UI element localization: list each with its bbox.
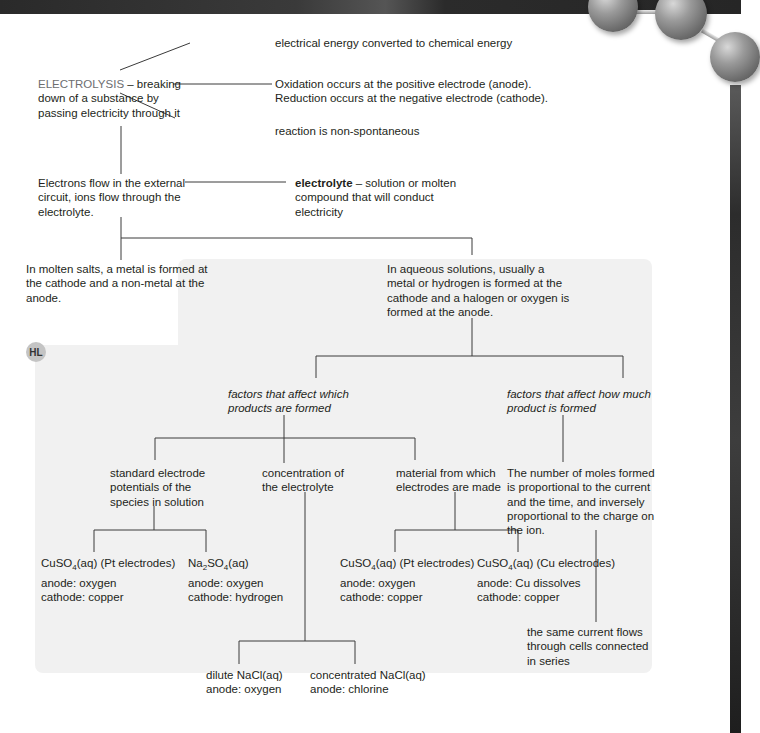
example-na2so4: Na2SO4(aq)anode: oxygencathode: hydrogen <box>188 556 283 604</box>
factors-which-heading: factors that affect which products are f… <box>228 387 349 416</box>
property-nonspontaneous: reaction is non-spontaneous <box>275 124 420 138</box>
solution: dilute NaCl(aq) <box>206 669 283 681</box>
connector <box>120 43 190 70</box>
formula: CuSO <box>477 557 508 569</box>
formula-rest: (aq) (Pt electrodes) <box>77 557 175 569</box>
formula-rest: (aq) <box>228 557 248 569</box>
anode-product: anode: oxygen <box>340 577 415 589</box>
property-energy: electrical energy converted to chemical … <box>275 36 512 50</box>
formula-rest: (aq) (Cu electrodes) <box>513 557 615 569</box>
moles-statement: The number of moles formed is proportion… <box>507 466 655 537</box>
electrolyte-definition: electrolyte – solution or molten compoun… <box>295 176 456 219</box>
property-redox: Oxidation occurs at the positive electro… <box>275 77 548 106</box>
anode-product: anode: oxygen <box>206 683 281 695</box>
cathode-product: cathode: copper <box>41 591 123 603</box>
cathode-product: cathode: copper <box>340 591 422 603</box>
example-cuso4-pt-potentials: CuSO4(aq) (Pt electrodes)anode: oxygenca… <box>41 556 175 604</box>
formula: Na <box>188 557 203 569</box>
anode-product: anode: chlorine <box>310 683 389 695</box>
factor-electrode-potentials: standard electrode potentials of the spe… <box>110 466 205 509</box>
cathode-product: cathode: hydrogen <box>188 591 283 603</box>
formula: CuSO <box>340 557 371 569</box>
solution: concentrated NaCl(aq) <box>310 669 426 681</box>
anode-product: anode: oxygen <box>188 577 263 589</box>
cathode-product: cathode: copper <box>477 591 559 603</box>
conduction-text: Electrons flow in the external circuit, … <box>38 176 185 219</box>
factor-concentration: concentration of the electrolyte <box>262 466 344 495</box>
molten-salts-text: In molten salts, a metal is formed at th… <box>26 262 208 305</box>
formula: CuSO <box>41 557 72 569</box>
electrolysis-term: ELECTROLYSIS <box>38 78 124 90</box>
series-statement: the same current flows through cells con… <box>527 625 648 668</box>
anode-product: anode: oxygen <box>41 577 116 589</box>
factors-how-much-heading: factors that affect how much product is … <box>507 387 651 416</box>
example-cuso4-cu: CuSO4(aq) (Cu electrodes)anode: Cu disso… <box>477 556 615 604</box>
anode-product: anode: Cu dissolves <box>477 577 581 589</box>
factor-electrode-material: material from which electrodes are made <box>396 466 501 495</box>
example-concentrated-nacl: concentrated NaCl(aq)anode: chlorine <box>310 668 426 697</box>
electrolyte-term: electrolyte <box>295 177 353 189</box>
electrolysis-definition: ELECTROLYSIS – breaking down of a substa… <box>38 77 181 120</box>
formula-rest: (aq) (Pt electrodes) <box>376 557 474 569</box>
aqueous-solutions-text: In aqueous solutions, usually a metal or… <box>387 262 569 319</box>
formula-mid: SO <box>207 557 224 569</box>
example-cuso4-pt-material: CuSO4(aq) (Pt electrodes)anode: oxygenca… <box>340 556 474 604</box>
example-dilute-nacl: dilute NaCl(aq)anode: oxygen <box>206 668 283 697</box>
